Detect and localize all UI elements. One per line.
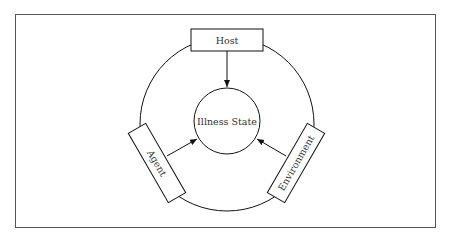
agent-arrow <box>167 139 197 156</box>
illness-state-label: Illness State <box>197 116 257 127</box>
environment-node: Environment <box>267 123 324 202</box>
triad-diagram: Illness State Host Agent Environment <box>0 0 450 236</box>
environment-arrow <box>257 139 286 156</box>
host-node: Host <box>191 29 263 51</box>
agent-node: Agent <box>128 123 185 202</box>
host-label: Host <box>216 35 239 46</box>
